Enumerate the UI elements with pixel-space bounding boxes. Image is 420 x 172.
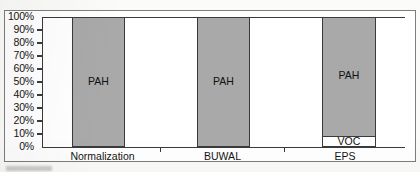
- x-axis-category-label-normalization: Normalization: [42, 149, 163, 163]
- y-axis-tick-label: 90%: [14, 23, 34, 36]
- bar-eps[interactable]: VOC PAH: [322, 17, 376, 147]
- y-axis-tick-label: 40%: [14, 88, 34, 101]
- bar-segment-pah[interactable]: PAH: [198, 18, 249, 146]
- bar-segment-label: PAH: [338, 69, 359, 81]
- y-axis-tick-label: 0%: [19, 140, 34, 153]
- y-axis-tick-label: 30%: [14, 101, 34, 114]
- bar-segment-pah[interactable]: PAH: [323, 18, 375, 136]
- bar-segment-label: VOC: [337, 135, 360, 147]
- y-axis-tick-label: 60%: [14, 62, 34, 75]
- y-axis: 100% 90% 80% 70% 60% 50% 40% 30%: [0, 17, 42, 147]
- bar-segment-label: PAH: [213, 75, 234, 87]
- y-axis-tick-label: 100%: [8, 10, 34, 23]
- plot-area: PAH PAH VOC PAH: [42, 17, 405, 147]
- scanned-figure: 100% 90% 80% 70% 60% 50% 40% 30%: [0, 0, 420, 172]
- x-axis-line: [42, 147, 405, 148]
- y-axis-tick-label: 50%: [14, 75, 34, 88]
- y-axis-tick-label: 10%: [14, 127, 34, 140]
- y-axis-tick-label: 20%: [14, 114, 34, 127]
- bar-segment-label: PAH: [88, 75, 109, 87]
- y-axis-tick-label: 80%: [14, 36, 34, 49]
- bar-normalization[interactable]: PAH: [72, 17, 125, 147]
- bar-segment-voc[interactable]: VOC: [323, 136, 375, 146]
- bar-segment-pah[interactable]: PAH: [73, 18, 124, 146]
- bar-buwal[interactable]: PAH: [197, 17, 250, 147]
- scan-artifact: [6, 166, 52, 171]
- x-axis-category-label-buwal: BUWAL: [161, 149, 284, 163]
- y-axis-tick-label: 70%: [14, 49, 34, 62]
- x-axis-category-label-eps: EPS: [285, 149, 405, 163]
